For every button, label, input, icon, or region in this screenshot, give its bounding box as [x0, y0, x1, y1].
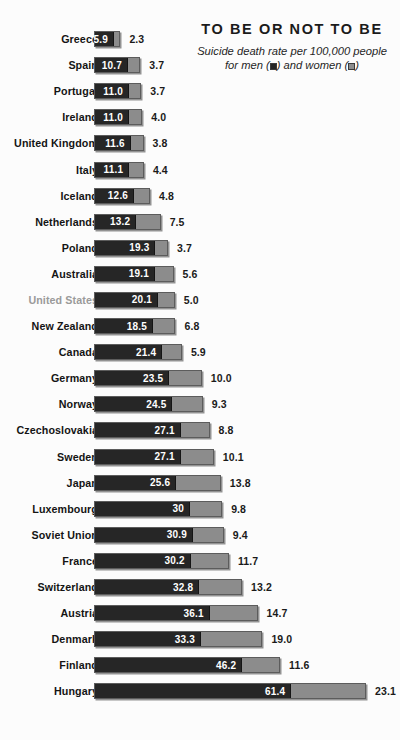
bar-segment-women [129, 110, 141, 124]
country-label: Ireland [62, 111, 98, 123]
bar-segment-men: 30 [95, 502, 190, 516]
women-value-label: 13.8 [230, 477, 251, 489]
country-label: Iceland [60, 190, 98, 202]
stacked-bar: 46.2 [94, 657, 280, 673]
country-label: Norway [59, 398, 98, 410]
bar-segment-men: 32.8 [95, 580, 199, 594]
stacked-bar: 33.3 [94, 631, 262, 647]
country-label: Portugal [54, 85, 98, 97]
table-row: Norway24.59.3 [0, 391, 400, 417]
stacked-bar: 27.1 [94, 422, 210, 438]
country-label: Greece [61, 33, 98, 45]
women-value-label: 6.8 [184, 320, 199, 332]
bar-inner: 23.5 [94, 370, 202, 386]
bar-segment-men: 10.7 [95, 58, 128, 72]
table-row: Canada21.45.9 [0, 339, 400, 365]
bar-segment-women [128, 58, 139, 72]
bar-segment-men: 11.0 [95, 84, 129, 98]
country-label: Canada [59, 346, 98, 358]
table-row: New Zealand18.56.8 [0, 313, 400, 339]
stacked-bar: 19.3 [94, 240, 168, 256]
women-value-label: 10.1 [223, 451, 244, 463]
women-value-label: 4.0 [151, 111, 166, 123]
bar-segment-women [193, 528, 223, 542]
men-value-label: 18.5 [127, 321, 152, 332]
bar-segment-men: 27.1 [95, 450, 181, 464]
bar-inner: 11.0 [94, 83, 141, 99]
bar-inner: 33.3 [94, 631, 262, 647]
table-row: Soviet Union30.99.4 [0, 522, 400, 548]
stacked-bar: 12.6 [94, 188, 150, 204]
country-label: New Zealand [32, 320, 98, 332]
table-row: United Kingdom11.63.8 [0, 130, 400, 156]
table-row: Sweden27.110.1 [0, 444, 400, 470]
bar-segment-women [131, 136, 143, 150]
table-row: Australia19.15.6 [0, 261, 400, 287]
women-value-label: 13.2 [251, 581, 272, 593]
stacked-bar: 5.9 [94, 31, 120, 47]
country-label: Soviet Union [31, 529, 98, 541]
bar-inner: 24.5 [94, 396, 203, 412]
stacked-bar: 21.4 [94, 344, 182, 360]
stacked-bar: 61.4 [94, 683, 366, 699]
country-label: Finland [59, 659, 98, 671]
chart-canvas: TO BE OR NOT TO BE Suicide death rate pe… [0, 0, 400, 740]
bar-segment-women [181, 450, 213, 464]
bar-inner: 10.7 [94, 57, 140, 73]
women-value-label: 2.3 [129, 33, 144, 45]
stacked-bar: 11.0 [94, 83, 141, 99]
men-value-label: 20.1 [132, 294, 157, 305]
women-value-label: 3.7 [149, 59, 164, 71]
men-value-label: 23.5 [143, 373, 168, 384]
table-row: Japan25.613.8 [0, 470, 400, 496]
bar-inner: 19.3 [94, 240, 168, 256]
bar-segment-men: 11.6 [95, 136, 131, 150]
women-value-label: 7.5 [170, 216, 185, 228]
bar-segment-women [291, 684, 365, 698]
bar-segment-men: 19.1 [95, 267, 155, 281]
stacked-bar: 27.1 [94, 449, 214, 465]
men-value-label: 11.0 [103, 86, 128, 97]
bar-segment-women [242, 658, 279, 672]
bar-segment-men: 25.6 [95, 476, 176, 490]
table-row: Czechoslovakia27.18.8 [0, 417, 400, 443]
men-value-label: 21.4 [136, 347, 161, 358]
bar-inner: 11.6 [94, 135, 144, 151]
bar-inner: 5.9 [94, 31, 120, 47]
stacked-bar: 30.2 [94, 553, 229, 569]
men-value-label: 27.1 [154, 425, 179, 436]
bar-segment-women [114, 32, 119, 46]
country-label: Austria [60, 607, 98, 619]
men-value-label: 33.3 [175, 634, 200, 645]
bar-segment-women [190, 502, 221, 516]
bar-segment-men: 61.4 [95, 684, 291, 698]
women-value-label: 3.7 [150, 85, 165, 97]
table-row: Portugal11.03.7 [0, 78, 400, 104]
men-value-label: 19.1 [129, 268, 154, 279]
country-label: United Kingdom [14, 137, 98, 149]
bar-inner: 30.9 [94, 527, 224, 543]
women-value-label: 11.6 [289, 659, 309, 671]
country-label: Australia [51, 268, 98, 280]
bar-segment-men: 21.4 [95, 345, 162, 359]
women-value-label: 5.0 [184, 294, 199, 306]
bar-inner: 19.1 [94, 266, 174, 282]
women-value-label: 4.8 [159, 190, 174, 202]
bar-segment-men: 33.3 [95, 632, 201, 646]
table-row: Iceland12.64.8 [0, 183, 400, 209]
women-value-label: 5.9 [191, 346, 206, 358]
stacked-bar: 18.5 [94, 318, 175, 334]
women-value-label: 19.0 [271, 633, 292, 645]
bar-rows-container: Greece5.92.3Spain10.73.7Portugal11.03.7I… [0, 26, 400, 704]
country-label: Denmark [52, 633, 98, 645]
women-value-label: 9.3 [212, 398, 227, 410]
men-value-label: 5.9 [93, 34, 113, 45]
bar-inner: 30.2 [94, 553, 229, 569]
bar-segment-men: 46.2 [95, 658, 242, 672]
bar-segment-women [136, 215, 159, 229]
stacked-bar: 13.2 [94, 214, 161, 230]
table-row: Finland46.211.6 [0, 652, 400, 678]
table-row: Switzerland32.813.2 [0, 574, 400, 600]
men-value-label: 27.1 [155, 451, 180, 462]
bar-inner: 18.5 [94, 318, 175, 334]
